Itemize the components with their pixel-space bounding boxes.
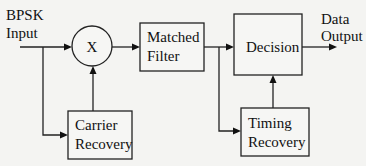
arrowhead-matched-filter <box>132 44 140 51</box>
arrowhead-decision <box>226 44 234 51</box>
decision-label: Decision <box>246 39 300 55</box>
timing-recovery-label-line2: Recovery <box>248 134 306 150</box>
arrowhead-output <box>329 44 337 51</box>
block-diagram: BPSK Input X Carrier Recovery Matched Fi… <box>0 0 366 166</box>
multiplier-symbol: X <box>87 39 98 55</box>
output-label-line1: Data <box>321 11 350 27</box>
arrowhead-carrier-recovery <box>60 132 68 139</box>
carrier-recovery-label-line1: Carrier <box>75 117 117 133</box>
carrier-recovery-label-line2: Recovery <box>75 136 133 152</box>
matched-filter-label-line1: Matched <box>147 29 200 45</box>
arrowhead-decision-bottom <box>270 75 277 83</box>
input-label-line1: BPSK <box>6 7 44 23</box>
wire-input-to-carrier-recovery <box>43 47 62 135</box>
wire-matched-filter-to-timing-recovery <box>219 47 235 131</box>
arrowhead-multiplier <box>64 44 72 51</box>
matched-filter-label-line2: Filter <box>147 48 180 64</box>
arrowhead-timing-recovery <box>233 128 241 135</box>
input-label-line2: Input <box>6 25 38 41</box>
output-label-line2: Output <box>321 28 364 44</box>
arrowhead-multiplier-bottom <box>90 66 97 74</box>
timing-recovery-label-line1: Timing <box>248 115 292 131</box>
